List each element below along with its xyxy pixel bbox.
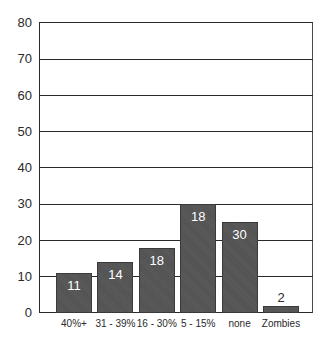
gridline	[39, 95, 313, 96]
y-tick-label: 10	[2, 270, 32, 284]
bar-value-label: 18	[181, 210, 215, 224]
y-tick-label: 60	[2, 89, 32, 103]
bar-chart: 01020304050607080 11141818302 40%+31 - 3…	[0, 0, 329, 345]
bar-value-label: 18	[140, 254, 174, 268]
y-tick-label: 20	[2, 234, 32, 248]
y-tick-label: 70	[2, 52, 32, 66]
gridline	[39, 240, 313, 241]
gridline	[39, 59, 313, 60]
bar: 18	[139, 248, 175, 313]
gridline	[39, 131, 313, 132]
bar-value-label: 2	[264, 291, 298, 305]
y-tick-label: 40	[2, 161, 32, 175]
y-tick-label: 80	[2, 16, 32, 30]
gridline	[39, 167, 313, 168]
y-tick-label: 30	[2, 197, 32, 211]
bar: 11	[56, 273, 92, 313]
gridline	[39, 204, 313, 205]
gridline	[39, 22, 313, 23]
bar-value-label: 30	[223, 228, 257, 242]
x-tick-label: Zombies	[256, 318, 306, 330]
bar-value-label: 14	[98, 268, 132, 282]
bar: 14	[97, 262, 133, 313]
bar: 30	[222, 222, 258, 313]
y-tick-label: 0	[2, 306, 32, 320]
bar: 18	[180, 204, 216, 313]
bar-value-label: 11	[57, 279, 91, 293]
y-tick-label: 50	[2, 125, 32, 139]
bar: 2	[263, 306, 299, 313]
